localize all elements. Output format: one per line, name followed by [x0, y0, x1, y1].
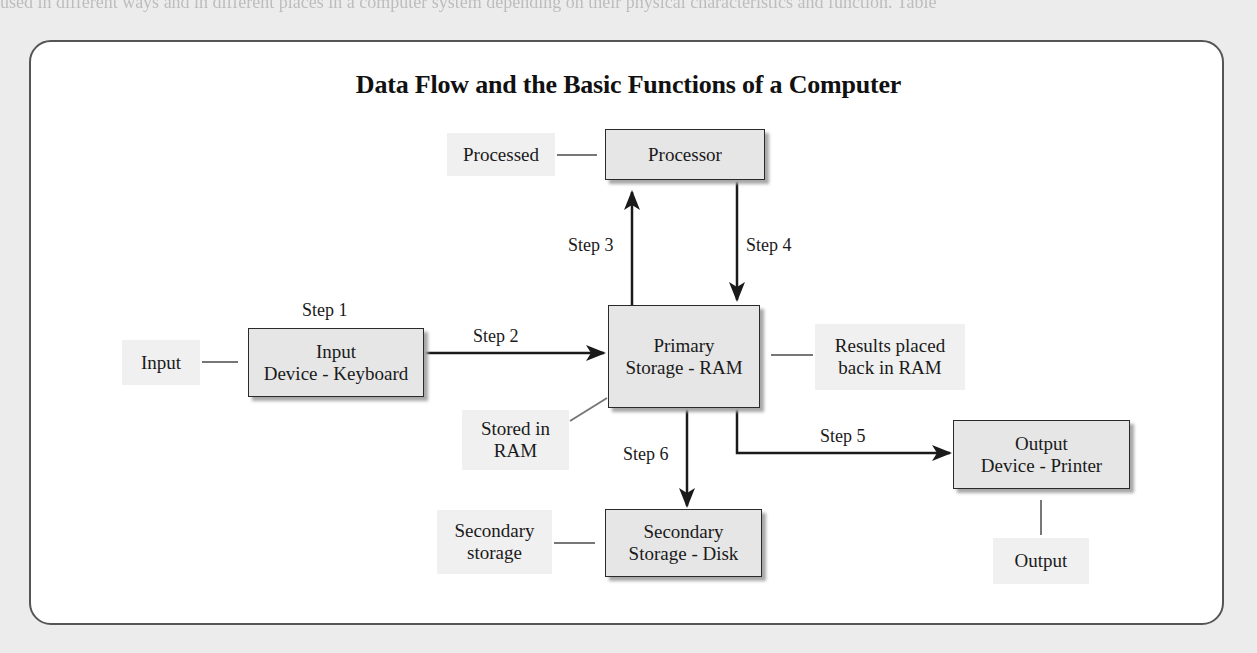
input-function-label: Input	[122, 340, 200, 385]
primary-storage-label-line2: Storage - RAM	[625, 357, 742, 379]
stored-function-text-line2: RAM	[481, 440, 550, 462]
stored-leader-line	[570, 398, 607, 421]
input-function-text: Input	[141, 352, 181, 374]
step6-label: Step 6	[623, 444, 669, 465]
input-device-label-line1: Input	[264, 341, 409, 363]
stored-function-text-line1: Stored in	[481, 418, 550, 440]
processor-label: Processor	[648, 144, 722, 166]
results-function-text-line2: back in RAM	[835, 357, 945, 379]
results-function-text-line1: Results placed	[835, 335, 945, 357]
step4-label: Step 4	[746, 235, 792, 256]
output-function-text: Output	[1015, 550, 1068, 572]
step3-label: Step 3	[568, 235, 614, 256]
output-device-box: Output Device - Printer	[953, 420, 1130, 489]
results-function-label: Results placed back in RAM	[815, 324, 965, 390]
output-device-label-line2: Device - Printer	[981, 455, 1102, 477]
secondary-function-text-line2: storage	[454, 542, 534, 564]
processed-function-text: Processed	[463, 144, 539, 166]
output-device-label-line1: Output	[981, 433, 1102, 455]
step2-label: Step 2	[473, 326, 519, 347]
step5-label: Step 5	[820, 426, 866, 447]
input-device-label-line2: Device - Keyboard	[264, 363, 409, 385]
secondary-function-text-line1: Secondary	[454, 520, 534, 542]
stored-function-label: Stored in RAM	[462, 410, 569, 470]
processor-box: Processor	[605, 129, 765, 180]
step1-label: Step 1	[302, 300, 348, 321]
input-device-box: Input Device - Keyboard	[248, 328, 424, 397]
secondary-function-label: Secondary storage	[437, 510, 552, 574]
processed-function-label: Processed	[447, 133, 555, 176]
secondary-storage-label-line2: Storage - Disk	[629, 543, 739, 565]
primary-storage-box: Primary Storage - RAM	[608, 305, 760, 408]
output-function-label: Output	[993, 538, 1089, 584]
secondary-storage-label-line1: Secondary	[629, 521, 739, 543]
primary-storage-label-line1: Primary	[625, 335, 742, 357]
secondary-storage-box: Secondary Storage - Disk	[605, 509, 762, 577]
